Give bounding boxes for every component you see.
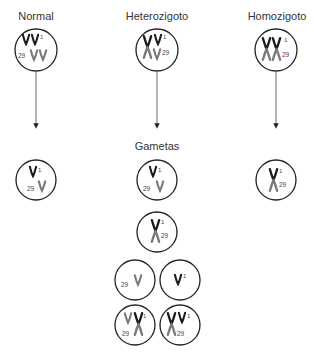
gamete-het-2: 1 29 [137,212,177,252]
gamete-homozygote: 1 29 [256,160,296,200]
svg-text:1: 1 [158,167,162,173]
svg-text:29: 29 [282,51,290,58]
svg-text:29: 29 [122,330,130,337]
svg-text:29: 29 [177,330,185,337]
gamete-normal: 1 29 [16,160,56,200]
svg-text:29: 29 [161,232,169,239]
svg-text:1: 1 [40,34,44,40]
svg-text:1: 1 [187,313,191,319]
cell-homozygote-parent: 1 29 [255,29,297,71]
gamete-het-4: 1 [160,260,200,300]
svg-text:29: 29 [162,49,170,56]
cell-heterozygote-parent: 1 29 [136,29,178,71]
karyotype-diagram: 1 29 1 29 1 29 1 29 1 29 [0,0,314,358]
svg-text:29: 29 [143,185,151,192]
svg-text:29: 29 [279,181,287,188]
svg-text:1: 1 [284,37,288,43]
gamete-het-3: 29 [115,260,155,300]
svg-text:29: 29 [18,52,26,59]
cell-normal-parent: 1 29 [15,29,57,71]
svg-text:1: 1 [161,219,165,225]
svg-text:1: 1 [38,167,42,173]
svg-text:29: 29 [121,281,129,288]
gamete-het-6: 1 29 [160,305,200,345]
gamete-het-5: 29 1 [115,305,155,345]
svg-text:1: 1 [163,34,167,40]
svg-text:1: 1 [143,313,147,319]
svg-text:1: 1 [183,273,187,279]
gamete-het-1: 1 29 [137,160,177,200]
svg-text:1: 1 [279,168,283,174]
svg-text:29: 29 [27,185,35,192]
